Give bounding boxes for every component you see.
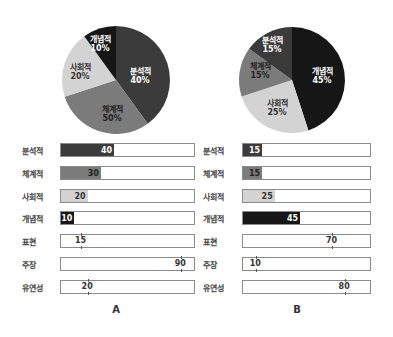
pie-slice-label: 분석적15% (262, 36, 283, 54)
slice-percent: 15% (250, 71, 271, 80)
slice-name: 분석적 (262, 36, 283, 45)
bar-fill: 45 (243, 212, 300, 224)
bar-label: 사회적 (203, 191, 224, 202)
bar-row: 분석적15 (0, 143, 393, 157)
marker-track: 10 (242, 257, 371, 271)
bar-track: 15 (242, 166, 371, 180)
marker-label: 표현 (203, 236, 217, 247)
pie-slice-label: 사회적25% (267, 99, 288, 117)
pie-slice-label: 개념적45% (312, 67, 333, 85)
slice-percent: 45% (312, 76, 333, 85)
marker-value: 70 (326, 235, 337, 246)
slice-name: 사회적 (267, 99, 288, 108)
bar-label: 분석적 (203, 145, 224, 156)
marker-track: 70 (242, 234, 371, 248)
slice-name: 체계적 (250, 62, 271, 71)
bar-fill: 25 (243, 190, 275, 202)
marker-row: 유연성80 (0, 280, 393, 294)
marker-track: 80 (242, 280, 371, 294)
marker-value: 10 (250, 258, 261, 269)
bar-value: 15 (249, 145, 260, 156)
bar-track: 45 (242, 211, 371, 225)
marker-tick (345, 292, 346, 295)
scale-marker: 70 (332, 233, 333, 249)
bar-value: 25 (262, 191, 273, 202)
bar-fill: 15 (243, 144, 262, 156)
bar-row: 사회적25 (0, 189, 393, 203)
panel-b: 개념적45%사회적25%체계적15%분석적15% 분석적15체계적15사회적25… (0, 0, 196, 337)
marker-label: 유연성 (203, 282, 224, 293)
pie-slice-label: 체계적15% (250, 62, 271, 80)
bar-label: 개념적 (203, 213, 224, 224)
marker-label: 주장 (203, 259, 217, 270)
bar-fill: 15 (243, 167, 262, 179)
scale-marker: 10 (256, 256, 257, 272)
slice-percent: 15% (262, 45, 283, 54)
marker-value: 80 (339, 281, 350, 292)
scale-marker: 80 (345, 279, 346, 295)
pie-chart-b (0, 0, 393, 140)
marker-tick (332, 246, 333, 249)
slice-name: 개념적 (312, 67, 333, 76)
bar-value: 15 (249, 168, 260, 179)
bar-row: 체계적15 (0, 166, 393, 180)
marker-tick (256, 269, 257, 272)
bar-row: 개념적45 (0, 211, 393, 225)
bar-track: 25 (242, 189, 371, 203)
bar-value: 45 (287, 213, 298, 224)
bar-label: 체계적 (203, 168, 224, 179)
bar-track: 15 (242, 143, 371, 157)
marker-row: 표현70 (0, 234, 393, 248)
panel-title-b: B (293, 304, 301, 315)
marker-row: 주장10 (0, 257, 393, 271)
slice-percent: 25% (267, 108, 288, 117)
